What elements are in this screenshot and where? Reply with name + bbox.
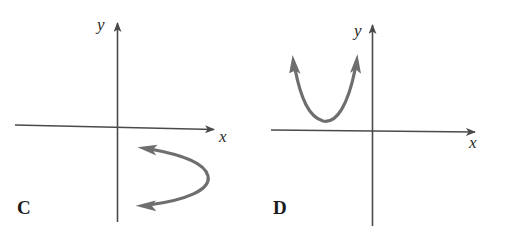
x-axis-line bbox=[15, 125, 214, 130]
panel-c: y x C bbox=[0, 0, 254, 234]
panel-c-graph bbox=[0, 0, 254, 234]
x-axis-label: x bbox=[469, 134, 477, 151]
y-axis-label: y bbox=[354, 22, 362, 39]
curve-d-parabola bbox=[295, 69, 355, 121]
panel-letter-d: D bbox=[273, 198, 287, 217]
graph-comparison-figure: y x C y x D bbox=[0, 0, 507, 234]
y-axis-label: y bbox=[97, 16, 105, 33]
curve-c-parabola bbox=[149, 149, 208, 205]
x-axis-label: x bbox=[219, 128, 227, 145]
panel-d: y x D bbox=[254, 0, 507, 234]
panel-letter-c: C bbox=[17, 198, 31, 217]
panel-d-graph bbox=[254, 0, 507, 234]
